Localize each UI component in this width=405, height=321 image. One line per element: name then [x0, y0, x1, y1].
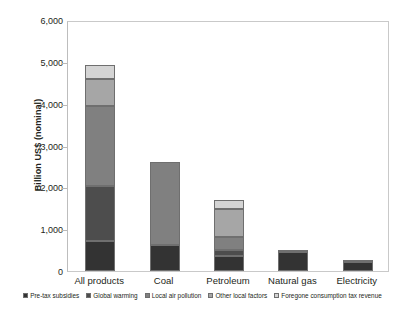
bar-group-petroleum[interactable] [197, 22, 261, 271]
y-axis-tick-label: 2,000 [23, 183, 63, 193]
stacked-bar[interactable] [85, 65, 115, 271]
x-axis-label-petroleum: Petroleum [196, 275, 260, 286]
bar-group-electricity[interactable] [326, 22, 390, 271]
bar-segment-pre-tax-subsidies[interactable] [278, 252, 308, 271]
bar-segment-other-local-factors[interactable] [343, 260, 373, 262]
bar-segment-global-warming[interactable] [85, 186, 115, 242]
legend-item[interactable]: Foregone consumption tax revenue [274, 292, 382, 299]
legend-swatch-icon [23, 293, 28, 298]
y-axis-tick-label: 5,000 [23, 58, 63, 68]
bar-group-coal[interactable] [132, 22, 196, 271]
legend-label: Local air pollution [152, 292, 202, 299]
legend-swatch-icon [208, 293, 213, 298]
bar-segment-other-local-factors[interactable] [214, 209, 244, 237]
stacked-bar[interactable] [150, 162, 180, 271]
legend-item[interactable]: Local air pollution [145, 292, 202, 299]
legend-swatch-icon [86, 293, 91, 298]
y-axis-tick-label: 1,000 [23, 225, 63, 235]
bar-segment-pre-tax-subsidies[interactable] [85, 241, 115, 271]
bar-segment-foregone-consumption-tax-revenue[interactable] [85, 65, 115, 79]
y-axis-tick-label: 4,000 [23, 100, 63, 110]
plot-area [67, 21, 389, 272]
y-axis-tick-label: 6,000 [23, 16, 63, 26]
legend-swatch-icon [274, 293, 279, 298]
x-axis-label-electricity: Electricity [325, 275, 389, 286]
bar-series-group [68, 22, 388, 271]
chart-legend: Pre-tax subsidiesGlobal warmingLocal air… [0, 292, 405, 299]
stacked-bar[interactable] [214, 200, 244, 271]
bar-group-all-products[interactable] [68, 22, 132, 271]
x-axis-label-coal: Coal [131, 275, 195, 286]
bar-group-natural-gas[interactable] [261, 22, 325, 271]
legend-item[interactable]: Pre-tax subsidies [23, 292, 79, 299]
bar-segment-local-air-pollution[interactable] [214, 237, 244, 250]
bar-segment-pre-tax-subsidies[interactable] [150, 245, 180, 271]
y-axis-tick-label: 3,000 [23, 142, 63, 152]
legend-item[interactable]: Global warming [86, 292, 137, 299]
legend-label: Global warming [93, 292, 137, 299]
x-axis-label-all-products: All products [67, 275, 131, 286]
bar-segment-other-local-factors[interactable] [85, 79, 115, 106]
stacked-bar[interactable] [278, 250, 308, 271]
bar-segment-local-air-pollution[interactable] [150, 162, 180, 245]
legend-item[interactable]: Other local factors [208, 292, 267, 299]
legend-label: Pre-tax subsidies [30, 292, 79, 299]
chart-container: Billion US$ (nominal) 6,0005,0004,0003,0… [0, 0, 405, 321]
legend-label: Foregone consumption tax revenue [281, 292, 382, 299]
bar-segment-pre-tax-subsidies[interactable] [343, 262, 373, 271]
bar-segment-global-warming[interactable] [214, 250, 244, 256]
y-axis-tick-label: 0 [23, 267, 63, 277]
bar-segment-foregone-consumption-tax-revenue[interactable] [214, 200, 244, 209]
bar-segment-pre-tax-subsidies[interactable] [214, 256, 244, 271]
bar-segment-other-local-factors[interactable] [278, 250, 308, 252]
x-axis-label-natural-gas: Natural gas [260, 275, 324, 286]
bar-segment-local-air-pollution[interactable] [85, 106, 115, 186]
legend-label: Other local factors [215, 292, 267, 299]
legend-swatch-icon [145, 293, 150, 298]
stacked-bar[interactable] [343, 260, 373, 271]
